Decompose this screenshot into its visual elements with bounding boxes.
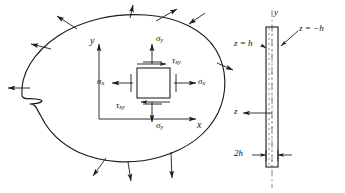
traction-arrow-bottom-center <box>128 162 131 181</box>
sigma-x-right-subscript: x <box>202 79 205 86</box>
tau-bottom-subscript: xy <box>119 103 125 110</box>
sigma-y-bottom-subscript: y <box>160 123 163 130</box>
tau-top-subscript: xy <box>175 58 181 65</box>
plate-edge-view <box>243 10 298 188</box>
traction-arrow-top-inward <box>189 13 205 24</box>
traction-arrow-bottom-left <box>93 158 106 176</box>
sigma-y-top-label: σy <box>156 34 163 44</box>
tau-xy-top-label: τxy <box>172 56 181 66</box>
sigma-x-left-subscript: x <box>101 79 104 86</box>
plate-y-axis-label: y <box>274 8 278 17</box>
elastic-body-outline <box>22 15 225 162</box>
boundary-traction-arrows <box>8 5 233 181</box>
sigma-x-right-label: σx <box>198 77 205 87</box>
traction-arrow-right <box>217 63 233 70</box>
body-coordinate-axes <box>99 44 196 119</box>
traction-arrow-top-left <box>57 16 77 29</box>
plate-z-axis-label: z <box>234 107 238 116</box>
traction-arrow-top-center <box>130 5 133 18</box>
traction-arrow-left-upper <box>31 44 51 49</box>
body-x-axis-label: x <box>197 120 201 130</box>
traction-arrow-bottom-right <box>171 152 172 178</box>
sigma-x-left-label: σx <box>97 77 104 87</box>
sigma-y-top-subscript: y <box>160 36 163 43</box>
body-y-axis-label: y <box>90 36 94 46</box>
stress-element-square <box>137 68 170 98</box>
plate-bottom-surface-label: z = −h <box>299 24 324 33</box>
plane-stress-figure <box>0 0 345 193</box>
sigma-y-bottom-label: σy <box>156 121 163 131</box>
z-equals-h-leader <box>261 45 266 48</box>
tau-xy-bottom-label: τxy <box>116 101 125 111</box>
z-equals-minus-h-leader <box>281 31 298 46</box>
plate-thickness-label: 2h <box>234 149 243 158</box>
plate-top-surface-label: z = h <box>234 39 253 48</box>
traction-arrow-top-right <box>156 9 177 21</box>
